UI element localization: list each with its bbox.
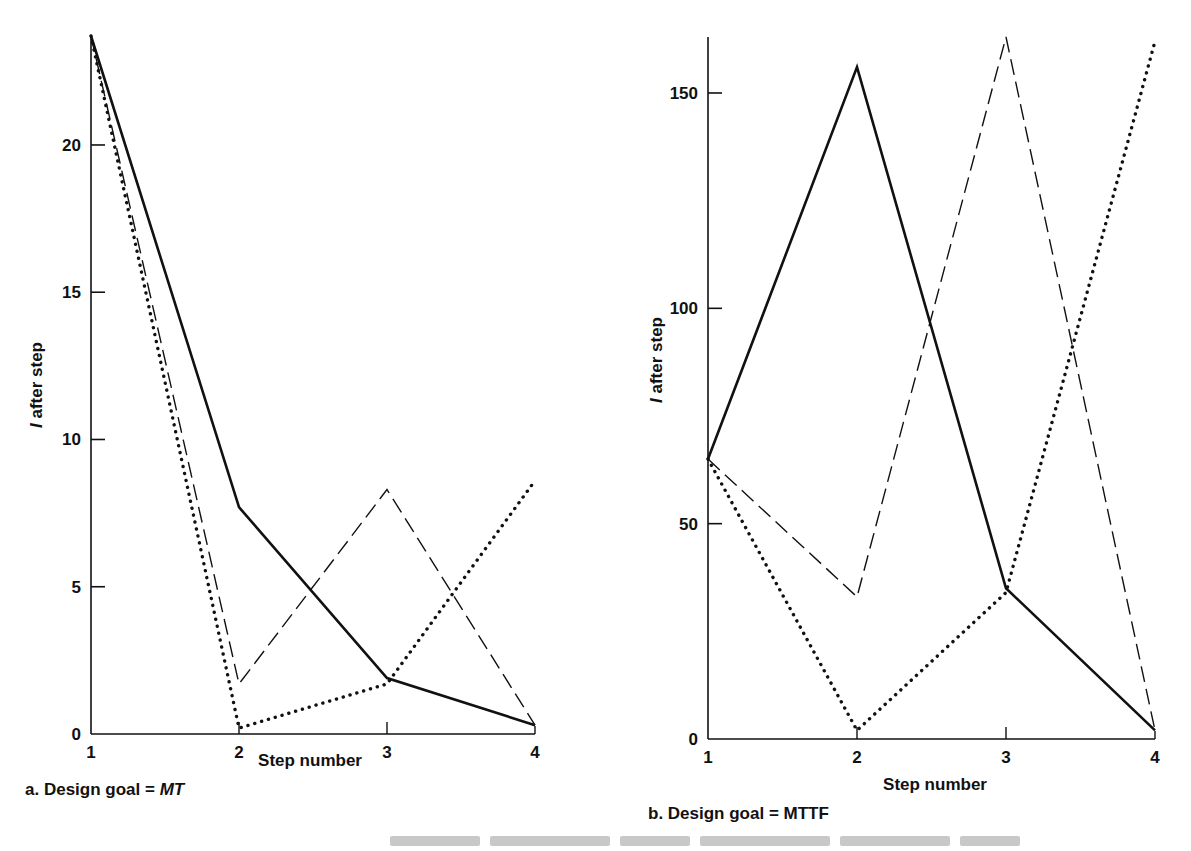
x-axis-title: Step number bbox=[258, 751, 362, 770]
series-line-dashed bbox=[708, 37, 1155, 730]
x-tick-label: 4 bbox=[530, 743, 540, 762]
series-line-dotted bbox=[708, 41, 1155, 730]
series-line-solid bbox=[91, 36, 535, 725]
x-axis-title: Step number bbox=[883, 775, 987, 794]
series-line-dotted bbox=[91, 36, 535, 728]
y-axis-title: I after step bbox=[27, 342, 46, 428]
y-tick-label: 50 bbox=[679, 515, 698, 534]
y-tick-label: 0 bbox=[72, 725, 81, 744]
y-tick-label: 0 bbox=[689, 730, 698, 749]
y-tick-label: 5 bbox=[72, 578, 81, 597]
figure-caption-faint bbox=[390, 836, 1020, 846]
x-tick-label: 3 bbox=[1001, 748, 1010, 767]
y-tick-label: 100 bbox=[670, 299, 698, 318]
y-tick-label: 20 bbox=[62, 136, 81, 155]
series-line-solid bbox=[708, 67, 1155, 730]
panel-caption: b. Design goal = MTTF bbox=[648, 804, 829, 823]
chart-panel-b: 0501001501234Step numberI after stepb. D… bbox=[647, 37, 1160, 823]
x-tick-label: 4 bbox=[1150, 748, 1160, 767]
x-tick-label: 1 bbox=[703, 748, 712, 767]
x-tick-label: 2 bbox=[852, 748, 861, 767]
chart-panel-a: 051015201234Step numberI after stepa. De… bbox=[25, 36, 540, 799]
y-tick-label: 10 bbox=[62, 430, 81, 449]
y-tick-label: 150 bbox=[670, 84, 698, 103]
x-tick-label: 1 bbox=[86, 743, 95, 762]
x-tick-label: 2 bbox=[234, 743, 243, 762]
series-line-dashed bbox=[91, 36, 535, 725]
panel-caption: a. Design goal = MT bbox=[25, 780, 186, 799]
x-tick-label: 3 bbox=[382, 743, 391, 762]
figure: 051015201234Step numberI after stepa. De… bbox=[0, 0, 1191, 851]
y-axis-title: I after step bbox=[647, 317, 666, 403]
y-tick-label: 15 bbox=[62, 283, 81, 302]
